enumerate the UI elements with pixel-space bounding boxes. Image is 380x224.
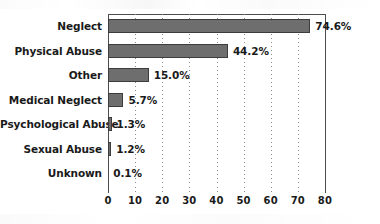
x-tick-label-80: 80 xyxy=(310,195,340,207)
value-label-medical-neglect: 5.7% xyxy=(128,88,157,113)
value-label-physical-abuse: 44.2% xyxy=(233,39,269,64)
x-tick-80 xyxy=(325,187,326,193)
category-label-medical-neglect: Medical Neglect xyxy=(0,88,102,113)
bar-row: Medical Neglect5.7% xyxy=(0,88,380,113)
bar-row: Neglect74.6% xyxy=(0,14,380,39)
x-tick-20 xyxy=(162,187,163,193)
bar-sexual-abuse xyxy=(108,142,111,156)
x-tick-label-70: 70 xyxy=(283,195,313,207)
bar-row: Sexual Abuse1.2% xyxy=(0,137,380,162)
bar-row: Physical Abuse44.2% xyxy=(0,39,380,64)
value-label-other: 15.0% xyxy=(154,63,190,88)
scan-artifact-bottom xyxy=(0,214,380,224)
bar-neglect xyxy=(108,19,310,33)
x-tick-0 xyxy=(108,187,109,193)
bar-row: Psychological Abuse1.3% xyxy=(0,112,380,137)
value-label-unknown: 0.1% xyxy=(113,161,142,186)
x-tick-label-10: 10 xyxy=(120,195,150,207)
x-tick-label-50: 50 xyxy=(229,195,259,207)
bar-chart: 01020304050607080 Neglect74.6%Physical A… xyxy=(0,0,380,224)
value-label-psychological-abuse: 1.3% xyxy=(117,112,146,137)
x-tick-label-20: 20 xyxy=(147,195,177,207)
bar-psychological-abuse xyxy=(108,117,112,131)
x-tick-label-60: 60 xyxy=(256,195,286,207)
x-tick-label-40: 40 xyxy=(202,195,232,207)
bar-row: Other15.0% xyxy=(0,63,380,88)
bar-medical-neglect xyxy=(108,93,123,107)
category-label-physical-abuse: Physical Abuse xyxy=(0,39,102,64)
x-tick-40 xyxy=(217,187,218,193)
category-label-unknown: Unknown xyxy=(0,161,102,186)
bar-physical-abuse xyxy=(108,44,228,58)
x-tick-label-0: 0 xyxy=(93,195,123,207)
category-label-neglect: Neglect xyxy=(0,14,102,39)
bar-other xyxy=(108,68,149,82)
category-label-other: Other xyxy=(0,63,102,88)
value-label-neglect: 74.6% xyxy=(315,14,351,39)
x-tick-10 xyxy=(135,187,136,193)
category-label-sexual-abuse: Sexual Abuse xyxy=(0,137,102,162)
category-label-psychological-abuse: Psychological Abuse xyxy=(0,112,102,137)
scan-artifact-top xyxy=(0,0,380,9)
bar-row: Unknown0.1% xyxy=(0,161,380,186)
x-tick-70 xyxy=(298,187,299,193)
x-tick-label-30: 30 xyxy=(174,195,204,207)
x-tick-30 xyxy=(189,187,190,193)
value-label-sexual-abuse: 1.2% xyxy=(116,137,145,162)
x-tick-50 xyxy=(244,187,245,193)
x-tick-60 xyxy=(271,187,272,193)
